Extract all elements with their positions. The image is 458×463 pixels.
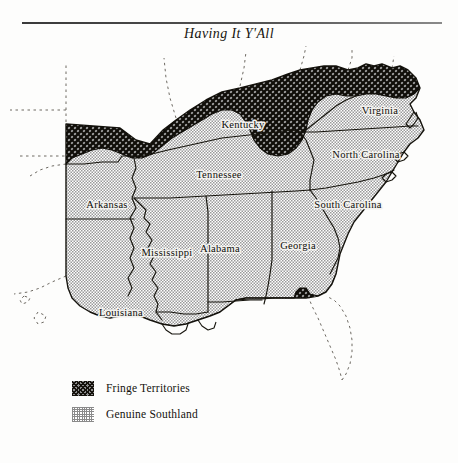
state-label-kentucky: Kentucky: [221, 119, 265, 130]
state-label-tennessee: Tennessee: [196, 169, 242, 180]
state-label-north-carolina: North Carolina: [332, 149, 400, 160]
legend-swatch-genuine-icon: [72, 407, 94, 422]
state-label-alabama: Alabama: [200, 243, 240, 254]
legend-item-genuine-southland: Genuine Southland: [72, 404, 198, 424]
legend-item-fringe-territories: Fringe Territories: [72, 378, 198, 398]
legend-label-genuine: Genuine Southland: [106, 408, 198, 420]
state-label-virginia: Virginia: [362, 105, 399, 116]
map-legend: Fringe Territories Genuine Southland: [72, 378, 198, 430]
south-map-svg: KentuckyVirginiaTennesseeNorth CarolinaS…: [0, 44, 458, 384]
legend-swatch-fringe-icon: [72, 381, 94, 396]
header-rule: [22, 22, 442, 24]
state-label-arkansas: Arkansas: [86, 199, 127, 210]
map-figure: Having It Y'All: [0, 0, 458, 463]
legend-label-fringe: Fringe Territories: [106, 382, 190, 394]
map-canvas: KentuckyVirginiaTennesseeNorth CarolinaS…: [0, 44, 458, 384]
state-label-mississippi: Mississippi: [141, 247, 192, 258]
state-label-georgia: Georgia: [280, 240, 316, 251]
state-label-louisiana: Louisiana: [99, 307, 143, 318]
state-label-south-carolina: South Carolina: [314, 199, 382, 210]
page-title: Having It Y'All: [0, 26, 458, 42]
